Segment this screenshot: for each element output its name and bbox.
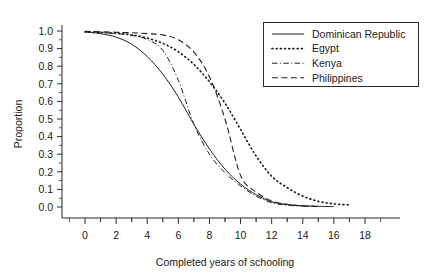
legend-label-kenya: Kenya — [312, 57, 342, 69]
x-tick-label: 18 — [359, 229, 371, 241]
x-tick-label: 4 — [144, 229, 150, 241]
y-tick-label: 0.9 — [38, 42, 53, 54]
x-axis: 024681012141618 Completed years of schoo… — [62, 218, 400, 268]
y-tick-label: 0.6 — [38, 95, 53, 107]
x-tick-label: 2 — [113, 229, 119, 241]
y-tick-label: 0.0 — [38, 201, 53, 213]
y-tick-label: 1.0 — [38, 25, 53, 37]
x-axis-title: Completed years of schooling — [156, 256, 294, 268]
y-tick-label: 0.5 — [38, 113, 53, 125]
legend-label-egypt: Egypt — [312, 42, 339, 54]
y-axis-title: Proportion — [12, 100, 24, 149]
y-tick-label: 0.2 — [38, 166, 53, 178]
legend: Dominican RepublicEgyptKenyaPhilippines — [264, 23, 419, 87]
y-tick-label: 0.4 — [38, 130, 53, 142]
x-tick-label: 8 — [207, 229, 213, 241]
y-axis-ticks — [57, 31, 62, 207]
x-axis-ticks — [69, 218, 380, 224]
x-tick-label: 12 — [266, 229, 278, 241]
y-tick-label: 0.3 — [38, 148, 53, 160]
x-tick-label: 16 — [328, 229, 340, 241]
x-tick-label: 0 — [82, 229, 88, 241]
x-tick-label: 6 — [175, 229, 181, 241]
y-axis-tick-labels: 0.00.10.20.30.40.50.60.70.80.91.0 — [38, 25, 53, 213]
legend-label-philippines: Philippines — [312, 72, 363, 84]
x-tick-label: 10 — [235, 229, 247, 241]
chart-container: 0.00.10.20.30.40.50.60.70.80.91.0 Propor… — [0, 0, 432, 279]
line-chart: 0.00.10.20.30.40.50.60.70.80.91.0 Propor… — [0, 0, 432, 279]
y-tick-label: 0.8 — [38, 60, 53, 72]
y-axis: 0.00.10.20.30.40.50.60.70.80.91.0 Propor… — [12, 25, 62, 218]
y-tick-label: 0.7 — [38, 78, 53, 90]
x-axis-tick-labels: 024681012141618 — [82, 229, 371, 241]
y-tick-label: 0.1 — [38, 183, 53, 195]
legend-label-dominican-republic: Dominican Republic — [312, 28, 405, 40]
x-tick-label: 14 — [297, 229, 309, 241]
